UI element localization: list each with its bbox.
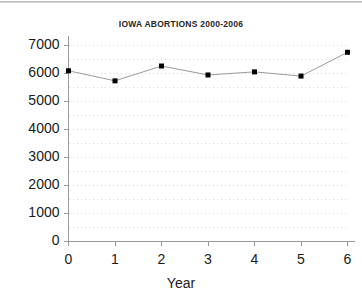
y-tick-marks-group: [64, 45, 69, 241]
data-point-marker: [252, 69, 257, 74]
x-axis-tick-label: 4: [243, 251, 267, 267]
axis-lines-group: [69, 36, 355, 241]
y-axis-tick-label: 5000: [6, 92, 60, 108]
data-point-marker: [345, 50, 350, 55]
y-axis-tick-label: 6000: [6, 64, 60, 80]
x-axis-tick-label: 6: [336, 251, 360, 267]
y-axis-tick-label: 7000: [6, 36, 60, 52]
x-axis-tick-label: 3: [196, 251, 220, 267]
y-axis-tick-label: 0: [6, 232, 60, 248]
x-axis-tick-label: 5: [289, 251, 313, 267]
x-axis-tick-label: 1: [103, 251, 127, 267]
gridlines-group: [69, 45, 348, 227]
x-tick-marks-group: [69, 241, 348, 246]
data-point-marker: [299, 74, 304, 79]
y-axis-tick-label: 3000: [6, 148, 60, 164]
data-point-marker: [159, 64, 164, 69]
chart-canvas: IOWA ABORTIONS 2000-2006 700060005000400…: [0, 0, 362, 300]
y-axis-tick-label: 4000: [6, 120, 60, 136]
x-axis-title: Year: [0, 275, 362, 291]
data-point-marker: [206, 72, 211, 77]
y-axis-tick-label: 1000: [6, 204, 60, 220]
data-point-marker: [66, 68, 71, 73]
x-axis-tick-label: 0: [57, 251, 81, 267]
data-point-marker: [113, 78, 118, 83]
data-point-markers-group: [66, 50, 350, 84]
y-axis-tick-label: 2000: [6, 176, 60, 192]
x-axis-tick-label: 2: [150, 251, 174, 267]
